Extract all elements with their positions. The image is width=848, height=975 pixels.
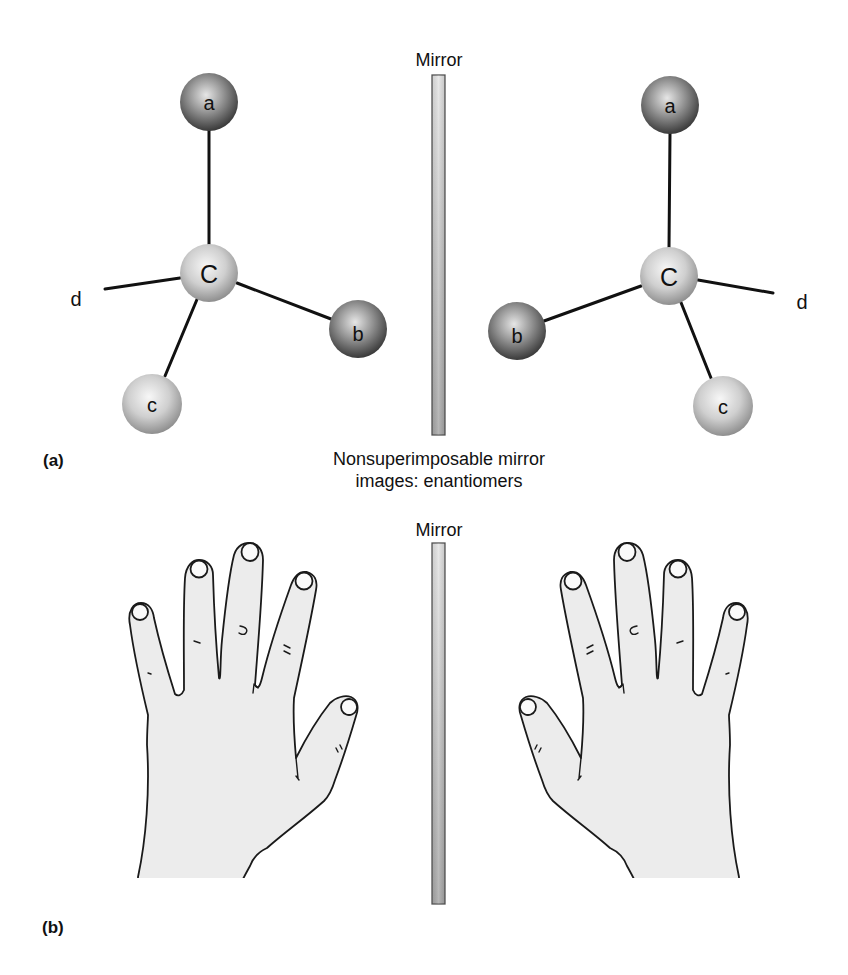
atom-a-label: a <box>203 92 215 114</box>
panel-b: Mirror (b) <box>42 520 748 937</box>
mirror-label-top: Mirror <box>416 50 463 70</box>
mirror-top-shading <box>432 75 445 435</box>
bond-c-b <box>544 286 641 321</box>
caption-line-1: Nonsuperimposable mirror <box>333 449 545 469</box>
left-molecule: a C b c d <box>70 73 387 434</box>
panel-b-label: (b) <box>42 918 64 937</box>
panel-a-label: (a) <box>43 451 64 470</box>
atom-c-label: c <box>718 396 728 418</box>
atom-b-label: b <box>511 325 522 347</box>
figure-canvas: Mirror a C b c d a <box>0 0 848 975</box>
bond-c-c <box>165 297 198 376</box>
atom-b-label: b <box>352 323 363 345</box>
bond-c-b <box>237 283 331 319</box>
right-hand <box>518 543 748 892</box>
enantiomer-figure: Mirror a C b c d a <box>0 0 848 975</box>
caption: Nonsuperimposable mirror images: enantio… <box>333 449 545 491</box>
left-hand <box>129 543 359 892</box>
mirror-label-bottom: Mirror <box>416 520 463 540</box>
atom-d-label: d <box>70 288 81 310</box>
carbon-label: C <box>200 260 218 288</box>
bond-c-d <box>105 278 180 289</box>
right-molecule: a C b c d <box>488 76 808 436</box>
carbon-label: C <box>660 263 678 291</box>
caption-line-2: images: enantiomers <box>355 471 522 491</box>
mirror-bottom-shading <box>432 543 445 904</box>
wrist-fade <box>130 878 255 892</box>
wrist-fade <box>622 878 747 892</box>
atom-a-label: a <box>664 95 676 117</box>
bond-c-c <box>680 300 711 378</box>
bond-c-d <box>698 280 773 293</box>
bond-c-a <box>669 133 670 248</box>
atom-c-label: c <box>147 394 157 416</box>
atom-d-label: d <box>796 291 807 313</box>
panel-a: Mirror a C b c d a <box>43 50 808 470</box>
